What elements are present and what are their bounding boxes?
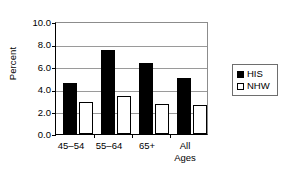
plot-area [55,22,208,135]
y-tick-mark-8 [52,46,56,47]
y-tick-label: 10.0 [21,18,51,28]
bar-his-55-64 [101,50,115,134]
x-category-label-all-ages: All Ages [166,140,204,164]
y-tick-label: 2.0 [21,108,51,118]
bar-nhw-55-64 [117,96,131,134]
bar-his-all-ages [177,78,191,135]
filled-square-icon [237,71,244,78]
y-axis-title: Percent [7,34,18,94]
legend-entry-his: HIS [237,68,274,80]
bar-his-65-plus [139,63,153,134]
y-tick-mark-2 [52,113,56,114]
y-tick-label: 6.0 [21,63,51,73]
x-category-label-45-54: 45–54 [52,140,90,152]
y-tick-mark-6 [52,68,56,69]
y-axis-tick-labels: 10.0 8.0 6.0 4.0 2.0 0.0 [20,0,51,187]
x-category-label-55-64: 55–64 [90,140,128,152]
bar-nhw-65-plus [155,104,169,135]
x-tick-mark [170,134,171,138]
x-category-label-65-plus: 65+ [128,140,166,152]
bar-his-45-54 [63,83,77,134]
x-tick-mark [94,134,95,138]
open-square-icon [237,83,244,90]
y-tick-mark-0 [52,135,56,136]
y-tick-mark-4 [52,91,56,92]
bar-chart: Percent 10.0 8.0 6.0 4.0 2.0 0.0 [0,0,285,187]
y-tick-label: 4.0 [21,85,51,95]
y-tick-mark-10 [52,23,56,24]
legend-entry-nhw: NHW [237,80,274,92]
x-tick-mark [132,134,133,138]
legend-label-nhw: NHW [247,81,270,91]
bar-nhw-all-ages [193,105,207,134]
y-tick-label: 8.0 [21,40,51,50]
legend-label-his: HIS [247,69,263,79]
legend: HIS NHW [232,64,278,96]
gridline-8 [56,46,207,47]
gridline-6 [56,68,207,69]
bar-nhw-45-54 [79,102,93,134]
y-tick-label: 0.0 [21,130,51,140]
